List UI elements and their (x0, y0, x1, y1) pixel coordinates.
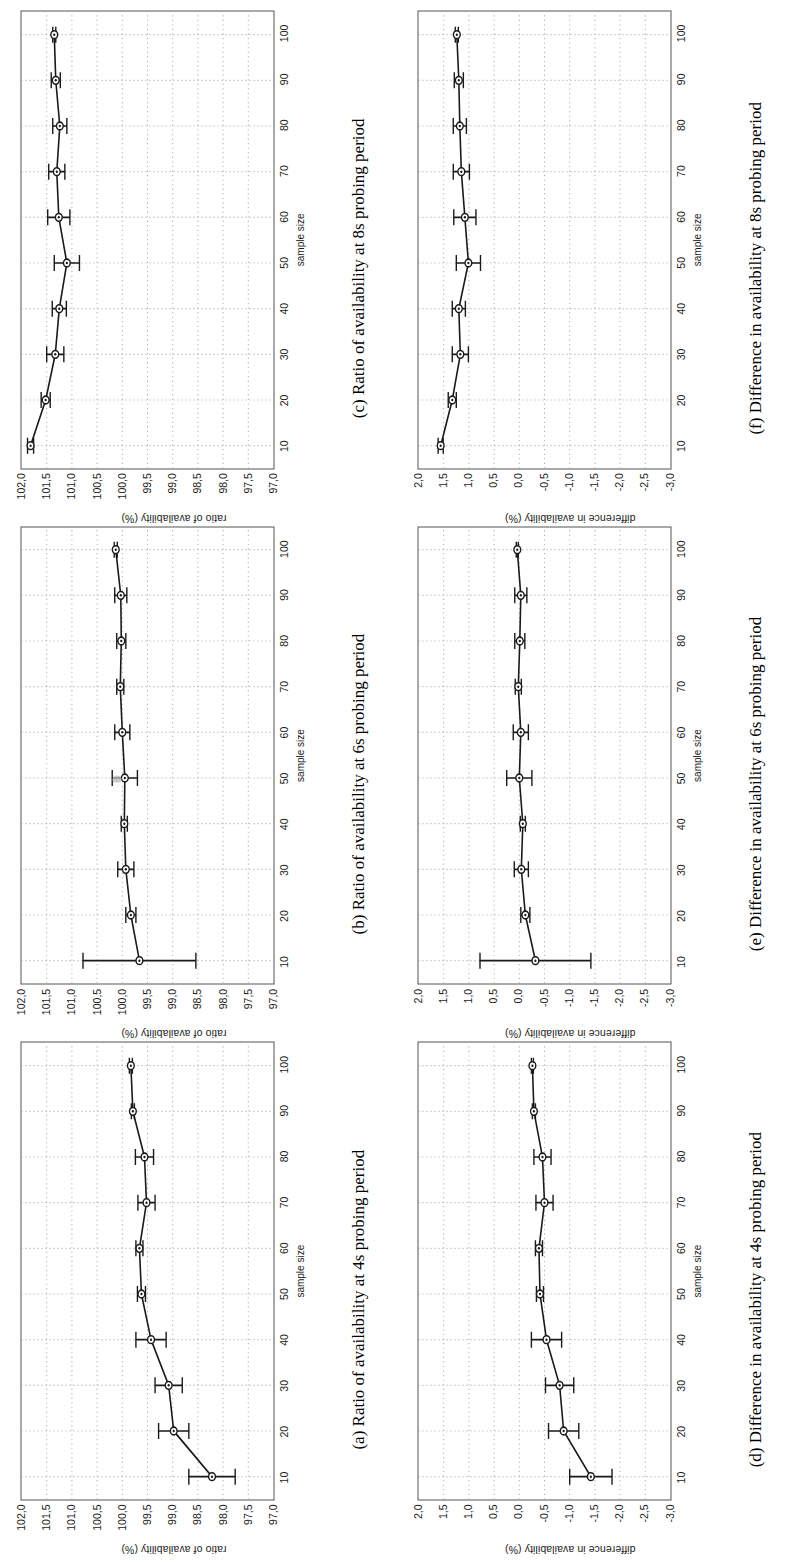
panel-f-y-tick: -2,5 (637, 473, 649, 491)
panel-d-y-axis-label: difference in availability (%) (411, 1542, 729, 1557)
panel-d-y-tick: -2,5 (637, 1504, 649, 1522)
panel-e-y-tick: 1,0 (461, 988, 473, 1003)
panel-c-y-tick: 98,5 (190, 473, 202, 493)
panel-b-y-tick: 101,5 (39, 988, 51, 1014)
panel-d-x-tick: 30 (674, 1380, 686, 1392)
panel-c: ratio of availability (%) 102,0101,5101,… (14, 10, 411, 526)
panel-c-x-tick: 10 (277, 440, 289, 452)
panel-d-x-tick: 50 (674, 1288, 686, 1300)
panel-e-x-axis-label: sample size (691, 526, 702, 985)
panel-d-x-ticks: 102030405060708090100 (674, 1041, 690, 1500)
panel-c-x-tick: 100 (277, 24, 289, 42)
panel-f-x-tick: 60 (674, 211, 686, 223)
panel-a-x-ticks: 102030405060708090100 (277, 1041, 293, 1500)
panel-d-series (418, 1042, 670, 1499)
panel-b-y-tick: 98,0 (216, 988, 228, 1008)
panel-c-series (21, 11, 273, 468)
panel-f-y-tick: 2,0 (411, 473, 423, 488)
panel-d-y-tick: -2,0 (612, 1504, 624, 1522)
panel-c-x-tick: 40 (277, 302, 289, 314)
panel-e-y-axis-label: difference in availability (%) (411, 1026, 729, 1041)
panel-e-y-tick: -2,5 (637, 988, 649, 1006)
panel-e-x-tick: 80 (674, 635, 686, 647)
panel-a-y-tick: 101,0 (64, 1504, 76, 1530)
panel-d-x-tick: 100 (674, 1056, 686, 1074)
panel-f-y-axis-label: difference in availability (%) (411, 511, 729, 526)
panel-a-caption: (a) Ratio of availability at 4s probing … (348, 1149, 368, 1449)
panel-a-x-axis-label: sample size (294, 1041, 305, 1500)
panel-c-x-tick: 60 (277, 211, 289, 223)
panel-d-x-tick: 70 (674, 1196, 686, 1208)
panel-a-y-tick: 98,5 (190, 1504, 202, 1524)
panel-a-x-tick: 80 (277, 1150, 289, 1162)
panel-f-y-tick: -1,5 (587, 473, 599, 491)
panel-c-y-ticks: 102,0101,5101,0100,5100,099,599,098,598,… (20, 469, 272, 511)
panel-f-series (418, 11, 670, 468)
panel-d-y-tick: 1,0 (461, 1504, 473, 1519)
panel-e-y-tick: 0,5 (486, 988, 498, 1003)
panel-f-y-tick: 0,0 (511, 473, 523, 488)
panel-f-x-tick: 40 (674, 302, 686, 314)
panel-d-y-tick: -1,5 (587, 1504, 599, 1522)
panel-c-plot-area (20, 10, 274, 469)
panel-a-series (21, 1042, 273, 1499)
panel-c-y-axis-label: ratio of availability (%) (14, 511, 332, 526)
panel-e-y-tick: -1,0 (562, 988, 574, 1006)
panel-c-x-tick: 20 (277, 394, 289, 406)
panel-f-y-tick: 1,0 (461, 473, 473, 488)
panel-d-caption: (d) Difference in availability at 4s pro… (745, 1132, 765, 1467)
panel-c-y-tick: 97,0 (266, 473, 278, 493)
panel-c-x-ticks: 102030405060708090100 (277, 10, 293, 469)
panel-e-x-tick: 30 (674, 864, 686, 876)
panel-a-x-tick: 40 (277, 1334, 289, 1346)
panel-d-x-tick: 40 (674, 1334, 686, 1346)
panel-e-series (418, 527, 670, 984)
panel-b-y-tick: 102,0 (14, 988, 26, 1014)
panel-a-x-tick: 90 (277, 1104, 289, 1116)
panel-b-x-tick: 80 (277, 635, 289, 647)
panel-b-series (21, 527, 273, 984)
panel-b-y-tick: 99,5 (140, 988, 152, 1008)
panel-f-x-tick: 20 (674, 394, 686, 406)
panel-c-x-axis-label: sample size (294, 10, 305, 469)
panel-f-x-tick: 80 (674, 119, 686, 131)
panel-a-y-tick: 102,0 (14, 1504, 26, 1530)
figure-sheet: ratio of availability (%) 102,0101,5101,… (0, 0, 811, 1567)
panel-d-y-tick: 2,0 (411, 1504, 423, 1519)
panel-f-x-tick: 30 (674, 348, 686, 360)
panel-a-y-tick: 99,0 (165, 1504, 177, 1524)
panel-c-y-tick: 98,0 (216, 473, 228, 493)
panel-b-plot-area (20, 526, 274, 985)
panel-a-y-tick: 101,5 (39, 1504, 51, 1530)
panel-e-y-tick: -0,5 (537, 988, 549, 1006)
panel-f-x-tick: 50 (674, 256, 686, 268)
panel-a-x-tick: 10 (277, 1471, 289, 1483)
panel-c-y-tick: 97,5 (241, 473, 253, 493)
panel-a-y-tick: 97,0 (266, 1504, 278, 1524)
panel-c-y-tick: 102,0 (14, 473, 26, 499)
panel-e-y-tick: 1,5 (436, 988, 448, 1003)
panel-a-plot-area (20, 1041, 274, 1500)
panel-a-y-tick: 100,0 (115, 1504, 127, 1530)
panel-a-x-tick: 20 (277, 1425, 289, 1437)
panel-b-x-ticks: 102030405060708090100 (277, 526, 293, 985)
panel-f-x-tick: 100 (674, 24, 686, 42)
panel-e-x-tick: 60 (674, 726, 686, 738)
panel-c-x-tick: 50 (277, 256, 289, 268)
panel-b-y-tick: 99,0 (165, 988, 177, 1008)
panel-d-y-tick: 0,0 (511, 1504, 523, 1519)
panel-e-x-tick: 20 (674, 910, 686, 922)
panel-e-x-tick: 100 (674, 540, 686, 558)
panel-d-y-ticks: 2,01,51,00,50,0-0,5-1,0-1,5-2,0-2,5-3,0 (417, 1500, 669, 1542)
panel-d-x-tick: 90 (674, 1104, 686, 1116)
panel-f-x-tick: 90 (674, 73, 686, 85)
panel-b-caption: (b) Ratio of availability at 6s probing … (348, 633, 368, 934)
panel-b-x-axis-label: sample size (294, 526, 305, 985)
panel-f-y-tick: -0,5 (537, 473, 549, 491)
panel-b-x-tick: 20 (277, 910, 289, 922)
panel-c-y-tick: 100,5 (90, 473, 102, 499)
panel-f-plot-area (417, 10, 671, 469)
panel-d-plot-area (417, 1041, 671, 1500)
panel-b-y-tick: 98,5 (190, 988, 202, 1008)
panel-d-y-tick: 1,5 (436, 1504, 448, 1519)
